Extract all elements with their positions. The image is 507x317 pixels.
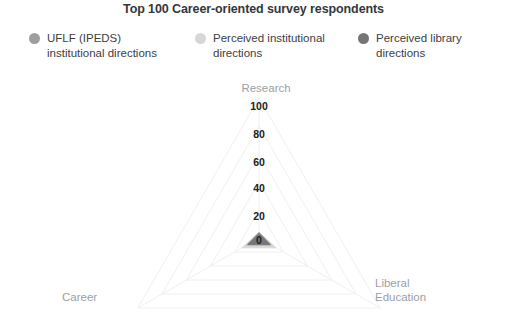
axis-label-liberal-education: Liberal Education [375, 276, 475, 304]
tick-label: 80 [229, 128, 289, 140]
legend-item-label: Perceived institutional directions [213, 31, 325, 60]
legend-dot-icon [195, 33, 206, 44]
legend-dot-icon [29, 33, 40, 44]
legend-item-uflf-ipeds[interactable]: UFLF (IPEDS) institutional directions [29, 31, 194, 60]
legend-item-perceived-institutional[interactable]: Perceived institutional directions [195, 31, 355, 60]
tick-label: 0 [229, 234, 289, 246]
tick-label: 40 [229, 182, 289, 194]
radar-chart: Research Career Liberal Education 100806… [0, 68, 507, 317]
axis-label-research: Research [226, 81, 306, 95]
grid-spoke [259, 238, 380, 308]
tick-label: 100 [229, 100, 289, 112]
legend-item-label: UFLF (IPEDS) institutional directions [47, 31, 157, 60]
axis-label-career: Career [62, 290, 152, 304]
tick-label: 20 [229, 210, 289, 222]
legend-item-perceived-library[interactable]: Perceived library directions [358, 31, 503, 60]
legend-item-label: Perceived library directions [376, 31, 462, 60]
chart-title: Top 100 Career-oriented survey responden… [0, 2, 507, 16]
chart-legend: UFLF (IPEDS) institutional directions Pe… [0, 31, 507, 71]
tick-label: 60 [229, 156, 289, 168]
grid-spoke [138, 238, 259, 308]
legend-dot-icon [358, 33, 369, 44]
